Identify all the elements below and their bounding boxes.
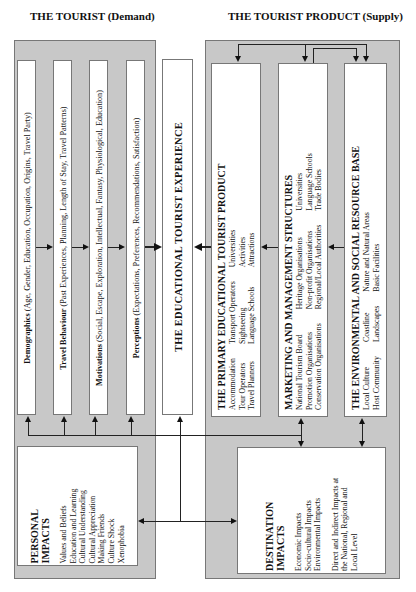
list-item: Tour Operators xyxy=(237,358,247,410)
list-item: Local Culture xyxy=(362,356,372,410)
connector-line xyxy=(267,247,278,248)
impacts-link-line xyxy=(144,521,231,522)
list-item: Accommodation xyxy=(228,358,238,410)
list-item: Cultural Appreciation xyxy=(88,449,98,564)
arrow-up-icon xyxy=(92,416,98,422)
arrow-down-icon xyxy=(235,56,241,62)
connector-line xyxy=(305,44,306,56)
arrow-down-icon xyxy=(353,56,359,62)
connector-line xyxy=(356,48,357,56)
arrow-up-icon xyxy=(359,418,365,424)
connector-line xyxy=(131,421,132,435)
list-item: Basic Facilities xyxy=(372,212,382,291)
arrow-up-icon xyxy=(25,416,31,422)
list-item: Culture Shock xyxy=(107,449,117,564)
demographics-label: Demographics xyxy=(22,313,31,363)
list-item: Universities xyxy=(228,230,238,268)
connector-line xyxy=(64,421,65,435)
arrow-left-icon xyxy=(194,243,202,251)
list-item: the National, Regional and xyxy=(340,451,350,571)
list-item: Host Community xyxy=(372,356,382,410)
list-item: Environmental Impacts xyxy=(313,451,323,571)
list-item: Regional/Local Authorities xyxy=(314,225,324,310)
connector-line xyxy=(313,48,356,49)
motivations-detail: (Social, Escape, Exploration, Intellectu… xyxy=(94,90,103,344)
list-item: National Tourism Board xyxy=(295,323,305,410)
primary-product-box: THE PRIMARY EDUCATIONAL TOURIST PRODUCT … xyxy=(211,63,261,417)
demographics-column: Demographics (Age, Gender, Education, Oc… xyxy=(17,60,36,415)
arrow-up-icon xyxy=(128,416,134,422)
list-item: Landscapes xyxy=(372,306,382,342)
arrow-down-icon xyxy=(298,441,304,447)
destination-impacts-box: DESTINATIONIMPACTS Economic Impacts Soci… xyxy=(237,447,386,574)
arrow-up-icon xyxy=(298,418,304,424)
list-item: Attractions xyxy=(247,230,257,268)
list-item: Socio-cultural Impacts xyxy=(303,451,313,571)
connector-line xyxy=(334,247,344,248)
arrow-right-icon xyxy=(47,244,53,250)
list-item: Activities xyxy=(237,230,247,268)
arrow-left-icon xyxy=(328,244,334,250)
connector-line xyxy=(180,421,181,521)
list-item: Travel Planners xyxy=(247,358,257,410)
list-item: Trade Bodies xyxy=(314,153,324,210)
list-item: Nature and Natural Areas xyxy=(362,212,372,291)
connector-line xyxy=(362,423,363,441)
connector-line xyxy=(28,421,29,435)
list-item: Sightseeing xyxy=(237,281,247,344)
motivations-label: Motivations xyxy=(94,344,103,386)
connector-line xyxy=(95,421,96,435)
educational-experience-box: THE EDUCATIONAL TOURIST EXPERIENCE xyxy=(162,59,193,415)
list-item: Xenophobia xyxy=(116,449,126,564)
demand-heading: THE TOURIST (Demand) xyxy=(30,10,155,22)
list-item: Cultural Understanding xyxy=(78,449,88,564)
personal-impacts-box: PERSONALIMPACTS Values and Beliefs Educa… xyxy=(17,446,138,566)
motivations-column: Motivations (Social, Escape, Exploration… xyxy=(89,60,108,415)
perceptions-detail: (Expectations, Preferences, Recommendati… xyxy=(131,117,140,317)
list-item: Universities xyxy=(295,153,305,210)
marketing-management-title: MARKETING AND MANAGEMENT STRUCTURES xyxy=(283,70,295,410)
travel-behaviour-detail: (Past Experiences, Planning, Length of S… xyxy=(58,106,67,308)
list-item: Language Schools xyxy=(304,153,314,210)
arrow-up-icon xyxy=(177,416,183,422)
arrow-right-icon xyxy=(231,518,237,524)
personal-impacts-title-2: IMPACTS xyxy=(40,518,51,563)
resource-base-title: THE ENVIRONMENTAL AND SOCIAL RESOURCE BA… xyxy=(350,70,362,410)
demographics-detail: (Age, Gender, Education, Occupation, Ori… xyxy=(22,112,31,313)
primary-product-title: THE PRIMARY EDUCATIONAL TOURIST PRODUCT xyxy=(216,70,228,410)
travel-behaviour-label: Travel Behaviour xyxy=(58,308,67,369)
connector-line xyxy=(238,44,239,56)
list-item: Promotion Organisations xyxy=(304,323,314,410)
list-item: Local Level xyxy=(350,451,360,571)
list-item: Transport Operators xyxy=(228,281,238,344)
connector-line xyxy=(301,423,302,441)
arrow-up-icon xyxy=(61,416,67,422)
arrow-right-icon xyxy=(83,244,89,250)
list-item: Making Friends xyxy=(97,449,107,564)
list-item: Coastline xyxy=(362,306,372,342)
arrow-right-icon xyxy=(154,243,162,251)
destination-impacts-title-2: IMPACTS xyxy=(275,525,286,570)
arrow-left-icon xyxy=(261,244,267,250)
list-item: Heritage Organisations xyxy=(295,225,305,310)
arrow-down-icon xyxy=(302,56,308,62)
marketing-management-box: MARKETING AND MANAGEMENT STRUCTURES Nati… xyxy=(278,63,328,417)
arrow-right-icon xyxy=(119,244,125,250)
connector-line xyxy=(313,48,314,63)
perceptions-label: Perceptions xyxy=(131,317,140,358)
educational-experience-title: THE EDUCATIONAL TOURIST EXPERIENCE xyxy=(172,122,183,352)
supply-heading: THE TOURIST PRODUCT (Supply) xyxy=(228,10,403,22)
list-item: Language Schools xyxy=(247,281,257,344)
personal-impacts-title-1: PERSONAL xyxy=(29,509,40,563)
connector-line xyxy=(366,44,367,56)
list-item: Education and Learning xyxy=(69,449,79,564)
travel-behaviour-column: Travel Behaviour (Past Experiences, Plan… xyxy=(53,60,72,415)
list-item: Non-profit Organisations xyxy=(304,225,314,310)
destination-impacts-title-1: DESTINATION xyxy=(264,501,275,570)
arrow-down-icon xyxy=(359,441,365,447)
list-item: Direct and Indirect Impacts at xyxy=(331,451,341,571)
perceptions-column: Perceptions (Expectations, Preferences, … xyxy=(126,60,145,415)
arrow-down-icon xyxy=(363,56,369,62)
list-item: Conservation Organisations xyxy=(314,323,324,410)
resource-base-box: THE ENVIRONMENTAL AND SOCIAL RESOURCE BA… xyxy=(344,63,387,417)
